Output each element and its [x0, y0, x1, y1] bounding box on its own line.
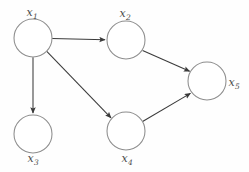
- node-label-x3: x3: [28, 153, 39, 164]
- node-x1[interactable]: [14, 19, 52, 57]
- node-label-x3-base: x: [28, 152, 34, 165]
- node-x2[interactable]: [107, 21, 145, 59]
- node-label-x3-subscript: 3: [34, 157, 39, 166]
- node-x4[interactable]: [107, 112, 145, 150]
- graph-diagram: x1 x2 x3 x4 x5: [0, 0, 249, 172]
- node-group: [14, 19, 226, 153]
- node-label-x1-subscript: 1: [33, 11, 38, 20]
- edge-x1-to-x4: [47, 51, 111, 118]
- node-label-x4: x4: [122, 153, 133, 164]
- node-label-x1: x1: [27, 7, 38, 18]
- node-label-x2-base: x: [120, 7, 126, 20]
- edge-x4-to-x5: [143, 93, 191, 121]
- node-label-x4-subscript: 4: [128, 157, 133, 166]
- node-x3[interactable]: [14, 115, 52, 153]
- node-label-x5-subscript: 5: [235, 81, 240, 90]
- node-label-x2-subscript: 2: [126, 12, 131, 21]
- node-label-x4-base: x: [122, 152, 128, 165]
- edge-x1-to-x2: [52, 39, 105, 40]
- node-label-x5-base: x: [229, 76, 235, 89]
- graph-canvas: [0, 0, 249, 172]
- node-label-x1-base: x: [27, 6, 33, 19]
- node-label-x2: x2: [120, 8, 131, 19]
- edge-x2-to-x5: [143, 51, 190, 72]
- node-label-x5: x5: [229, 77, 240, 88]
- node-x5[interactable]: [188, 62, 226, 100]
